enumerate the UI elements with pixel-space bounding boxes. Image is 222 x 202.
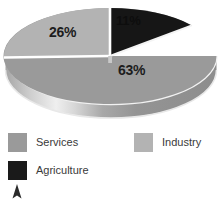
legend-row: Services Industry: [0, 131, 222, 157]
legend-label-services: Services: [36, 137, 78, 148]
pie-chart-graphic: 63% 26% 11%: [0, 0, 222, 128]
pie-slice-agriculture: [110, 8, 192, 56]
pie-chart-figure: 63% 26% 11% Services Industry Agricultur…: [0, 0, 222, 202]
slice-separator-services-industry: [4, 56, 110, 58]
legend-swatch-icon-industry: [134, 133, 153, 152]
chart-legend: Services Industry Agriculture: [0, 128, 222, 186]
pie-svg: [0, 0, 222, 128]
legend-row: Agriculture: [0, 159, 222, 185]
pie-slice-industry-fill: [4, 8, 110, 58]
pie-center-depth: [108, 56, 112, 63]
legend-item-agriculture[interactable]: Agriculture: [8, 159, 89, 181]
up-arrow-icon: [11, 184, 23, 199]
legend-item-services[interactable]: Services: [8, 131, 78, 153]
legend-swatch-icon-agriculture: [8, 161, 27, 180]
legend-label-agriculture: Agriculture: [36, 165, 89, 176]
legend-item-industry[interactable]: Industry: [134, 131, 201, 153]
legend-label-industry: Industry: [162, 137, 201, 148]
legend-swatch-icon-services: [8, 133, 27, 152]
